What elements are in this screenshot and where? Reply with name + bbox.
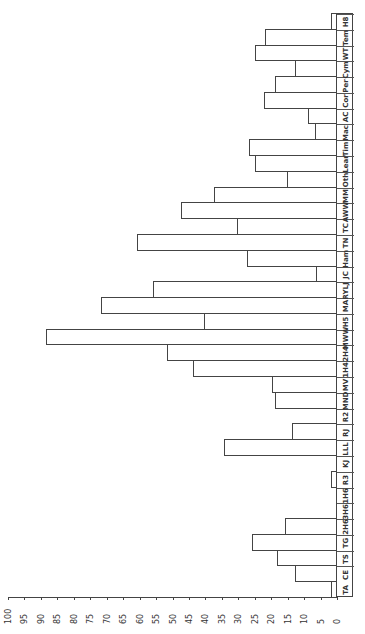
category-cell: CE [337, 566, 354, 582]
axis-tick [304, 597, 305, 600]
axis-tick-label: 15 [284, 614, 293, 624]
category-label: Lear [342, 156, 350, 173]
category-label: TG [342, 538, 350, 549]
category-label: TC [342, 223, 350, 233]
category-cell: Cym [337, 61, 354, 77]
bar [285, 518, 337, 535]
bar [193, 360, 337, 377]
category-label: 3H6 [342, 504, 350, 520]
axis-tick-label: 25 [251, 614, 260, 624]
axis-tick [205, 597, 206, 600]
axis-tick-label: 65 [119, 614, 128, 624]
category-label: AWW [342, 202, 350, 223]
category-label: Ham [342, 250, 350, 268]
axis-tick-label: 55 [152, 614, 161, 624]
bar [167, 344, 337, 361]
axis-tick-label: 70 [103, 614, 112, 624]
bar [264, 92, 337, 109]
category-label: R3 [342, 475, 350, 485]
axis-tick-label: 10 [300, 614, 309, 624]
bar-chart: TACETSTG2H63H61H6R3KJLLLRJR2MNDMV1H42H4M… [0, 0, 365, 634]
category-label: WT [342, 48, 350, 61]
axis-tick [74, 597, 75, 600]
category-label: KJ [342, 460, 350, 468]
category-cell: Oth [337, 172, 354, 188]
axis-tick-label: 50 [169, 614, 178, 624]
category-label: MV [342, 379, 350, 391]
axis-tick [288, 597, 289, 600]
category-cell: 2H6 [337, 519, 354, 535]
axis-tick [90, 597, 91, 600]
axis-tick-label: 100 [4, 609, 13, 624]
bar [275, 76, 337, 93]
category-cell: AWW [337, 203, 354, 219]
bar [252, 534, 337, 551]
category-label: H8 [342, 17, 350, 28]
axis-tick [41, 597, 42, 600]
category-label: Mac [342, 125, 350, 141]
category-cell: MWW [337, 330, 354, 346]
axis-tick [255, 597, 256, 600]
axis-tick [57, 597, 58, 600]
bar [247, 250, 337, 267]
category-cell: H5 [337, 314, 354, 330]
category-label: Tim [342, 141, 350, 155]
bar [292, 423, 337, 440]
axis-tick-label: 75 [86, 614, 95, 624]
axis-tick-label: 30 [234, 614, 243, 624]
axis-tick [123, 597, 124, 600]
axis-tick-label: 95 [20, 614, 29, 624]
category-cell: RYLJ [337, 282, 354, 298]
axis-tick-label: 90 [37, 614, 46, 624]
category-label-strip: TACETSTG2H63H61H6R3KJLLLRJR2MNDMV1H42H4M… [336, 13, 353, 597]
bar [287, 171, 337, 188]
axis-tick [271, 597, 272, 600]
category-cell: RJ [337, 424, 354, 440]
category-cell: TS [337, 551, 354, 567]
axis-tick [156, 597, 157, 600]
bar [308, 108, 337, 125]
bar [224, 439, 337, 456]
category-cell: TG [337, 535, 354, 551]
category-cell: MA [337, 298, 354, 314]
axis-tick [107, 597, 108, 600]
category-cell: H8 [337, 14, 354, 30]
category-cell: KJ [337, 456, 354, 472]
category-label: 2H6 [342, 520, 350, 536]
bar [315, 123, 337, 140]
category-label: H5 [342, 317, 350, 328]
bar [272, 376, 337, 393]
axis-tick-label: 5 [317, 619, 326, 624]
category-cell: Cor [337, 93, 354, 109]
axis-tick [8, 597, 9, 600]
category-label: RYLJ [342, 282, 350, 299]
category-label: TA [342, 585, 350, 595]
category-cell: 1H6 [337, 488, 354, 504]
bar [237, 218, 337, 235]
category-label: Per [342, 79, 350, 92]
bar [295, 60, 337, 77]
category-cell: MM [337, 188, 354, 204]
axis-tick [173, 597, 174, 600]
bar [46, 329, 337, 346]
category-cell: AC [337, 109, 354, 125]
category-label: LLL [342, 442, 350, 455]
axis-tick-label: 85 [53, 614, 62, 624]
category-label: MWW [342, 327, 350, 349]
category-label: Cor [342, 95, 350, 108]
bar [277, 550, 337, 567]
axis-tick-label: 40 [201, 614, 210, 624]
bar [255, 45, 337, 62]
category-label: MA [342, 300, 350, 312]
bar [101, 297, 337, 314]
category-label: MM [342, 189, 350, 203]
category-label: MND [342, 392, 350, 411]
axis-tick-label: 60 [136, 614, 145, 624]
axis-tick [24, 597, 25, 600]
bar [265, 29, 337, 46]
category-label: R2 [342, 412, 350, 422]
bar [295, 565, 337, 582]
category-cell: JC [337, 267, 354, 283]
category-label: Tem [342, 30, 350, 46]
axis-tick-label: 35 [218, 614, 227, 624]
